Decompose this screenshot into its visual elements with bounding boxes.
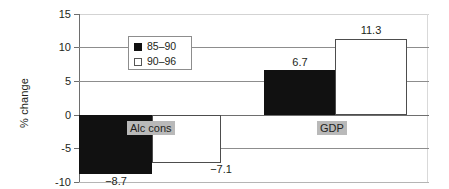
y-axis-tick-labels: 15 10 5 0 -5 -10 bbox=[32, 0, 71, 189]
legend-label-85-90: 85–90 bbox=[147, 41, 176, 52]
bar-chart: % change 15 10 5 0 -5 -10 bbox=[0, 0, 449, 189]
legend-item-85-90[interactable]: 85–90 bbox=[134, 40, 191, 53]
value-label-alc-cons-85-90: −8.7 bbox=[95, 175, 137, 187]
y-tick-label-5: 5 bbox=[32, 76, 71, 87]
value-label-gdp-85-90: 6.7 bbox=[279, 56, 321, 68]
y-axis-title: % change bbox=[18, 58, 30, 148]
y-tick-label-0: 0 bbox=[32, 110, 71, 121]
bar-gdp-85-90[interactable] bbox=[264, 70, 335, 115]
bar-gdp-90-96[interactable] bbox=[335, 39, 407, 115]
y-tick-label-minus5: -5 bbox=[32, 143, 71, 154]
y-tick-label-minus10: -10 bbox=[32, 177, 71, 188]
category-label-alc-cons: Alc cons bbox=[127, 121, 175, 135]
value-label-alc-cons-90-96: −7.1 bbox=[200, 163, 242, 175]
value-label-gdp-90-96: 11.3 bbox=[350, 24, 392, 36]
category-label-gdp: GDP bbox=[317, 121, 347, 135]
legend: 85–90 90–96 bbox=[128, 36, 192, 70]
legend-label-90-96: 90–96 bbox=[147, 56, 176, 67]
legend-item-90-96[interactable]: 90–96 bbox=[134, 55, 191, 68]
legend-swatch-dark-icon bbox=[134, 43, 142, 51]
y-tick-label-10: 10 bbox=[32, 42, 71, 53]
y-tick-label-15: 15 bbox=[32, 9, 71, 20]
legend-swatch-light-icon bbox=[134, 58, 142, 66]
